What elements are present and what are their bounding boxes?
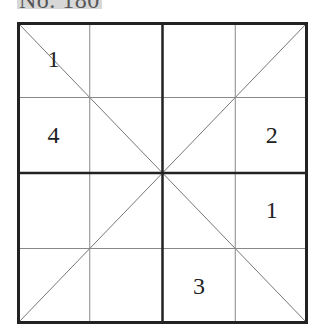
empty-cell[interactable] — [163, 173, 236, 249]
given-cell: 3 — [163, 249, 236, 325]
empty-cell[interactable] — [163, 22, 236, 98]
given-cell: 1 — [235, 173, 308, 249]
sudoku-board: 14213 — [17, 22, 308, 324]
empty-cell[interactable] — [90, 249, 163, 325]
given-cell: 4 — [17, 98, 90, 174]
given-cell: 1 — [17, 22, 90, 98]
puzzle-title: No. 180 — [17, 0, 102, 9]
empty-cell[interactable] — [90, 22, 163, 98]
empty-cell[interactable] — [235, 249, 308, 325]
empty-cell[interactable] — [90, 98, 163, 174]
empty-cell[interactable] — [235, 22, 308, 98]
empty-cell[interactable] — [90, 173, 163, 249]
empty-cell[interactable] — [17, 173, 90, 249]
empty-cell[interactable] — [17, 249, 90, 325]
given-cell: 2 — [235, 98, 308, 174]
empty-cell[interactable] — [163, 98, 236, 174]
